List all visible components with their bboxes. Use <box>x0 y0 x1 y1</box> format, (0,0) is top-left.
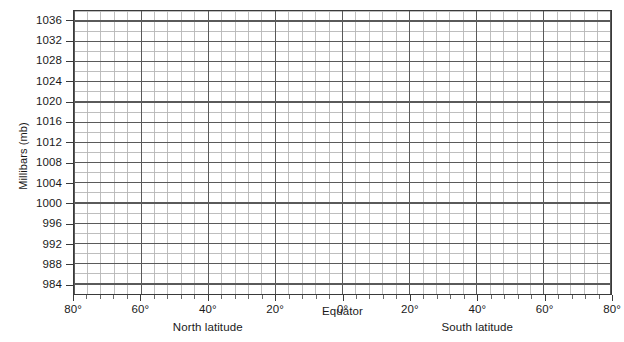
x-axis-minor-tick-mark <box>127 295 128 299</box>
x-axis-tick-label: 40° <box>447 303 507 316</box>
x-axis-minor-tick-mark <box>504 295 505 299</box>
x-axis-tick-label: 60° <box>515 303 575 316</box>
x-axis-minor-tick-mark <box>316 295 317 299</box>
y-axis-tick-mark <box>66 163 73 164</box>
x-axis-minor-tick-mark <box>167 295 168 299</box>
x-axis-region-label: North latitude <box>118 320 298 334</box>
x-axis-minor-tick-mark <box>154 295 155 299</box>
x-axis-minor-tick-mark <box>423 295 424 299</box>
pressure-latitude-chart: Millibars (mb) 1036103210281024102010161… <box>0 0 624 342</box>
y-axis-tick-mark <box>66 20 73 21</box>
x-axis-minor-tick-mark <box>289 295 290 299</box>
x-axis-minor-tick-mark <box>262 295 263 299</box>
x-axis-tick-mark <box>208 295 209 301</box>
x-axis-minor-tick-mark <box>194 295 195 299</box>
x-axis-tick-label: 40° <box>178 303 238 316</box>
x-axis-minor-tick-mark <box>558 295 559 299</box>
x-axis-minor-tick-mark <box>302 295 303 299</box>
x-axis-minor-tick-mark <box>369 295 370 299</box>
x-axis-minor-tick-mark <box>599 295 600 299</box>
x-axis-tick-label: 80° <box>582 303 624 316</box>
x-axis-tick-mark <box>410 295 411 301</box>
x-axis-tick-mark <box>343 295 344 301</box>
x-axis-tick-mark <box>612 295 613 301</box>
x-axis-minor-tick-mark <box>572 295 573 299</box>
y-axis-tick-mark <box>66 142 73 143</box>
x-axis-minor-tick-mark <box>113 295 114 299</box>
x-axis-minor-tick-mark <box>531 295 532 299</box>
x-axis-minor-tick-mark <box>86 295 87 299</box>
x-axis-region-label: South latitude <box>387 320 567 334</box>
x-axis-region-label-group: North latitudeEquatorSouth latitude <box>0 320 624 338</box>
x-axis-minor-tick-mark <box>585 295 586 299</box>
x-axis-tick-mark <box>477 295 478 301</box>
x-axis-minor-tick-mark <box>518 295 519 299</box>
y-axis-tick-mark <box>66 102 73 103</box>
x-axis-minor-tick-mark <box>329 295 330 299</box>
x-axis-tick-label: 60° <box>110 303 170 316</box>
x-axis-minor-tick-mark <box>491 295 492 299</box>
y-axis-tick-mark <box>66 285 73 286</box>
x-axis-tick-mark <box>275 295 276 301</box>
x-axis-minor-tick-mark <box>356 295 357 299</box>
y-axis-tick-mark <box>66 264 73 265</box>
x-axis-minor-tick-mark <box>437 295 438 299</box>
x-axis-minor-tick-mark <box>235 295 236 299</box>
x-axis-tick-mark <box>73 295 74 301</box>
y-axis-tick-mark <box>66 183 73 184</box>
axis-tick-mark-group <box>0 0 624 342</box>
y-axis-tick-mark <box>66 244 73 245</box>
x-axis-minor-tick-mark <box>464 295 465 299</box>
x-axis-minor-tick-mark <box>396 295 397 299</box>
x-axis-minor-tick-mark <box>248 295 249 299</box>
y-axis-tick-mark <box>66 41 73 42</box>
x-axis-tick-label: 80° <box>43 303 103 316</box>
x-axis-minor-tick-mark <box>181 295 182 299</box>
x-axis-minor-tick-mark <box>450 295 451 299</box>
y-axis-tick-mark <box>66 224 73 225</box>
x-axis-minor-tick-mark <box>100 295 101 299</box>
y-axis-tick-mark <box>66 203 73 204</box>
y-axis-tick-mark <box>66 81 73 82</box>
x-axis-minor-tick-mark <box>383 295 384 299</box>
x-axis-minor-tick-mark <box>221 295 222 299</box>
y-axis-tick-mark <box>66 122 73 123</box>
x-axis-region-label: Equator <box>253 304 433 318</box>
x-axis-tick-mark <box>545 295 546 301</box>
y-axis-tick-mark <box>66 61 73 62</box>
x-axis-tick-mark <box>140 295 141 301</box>
